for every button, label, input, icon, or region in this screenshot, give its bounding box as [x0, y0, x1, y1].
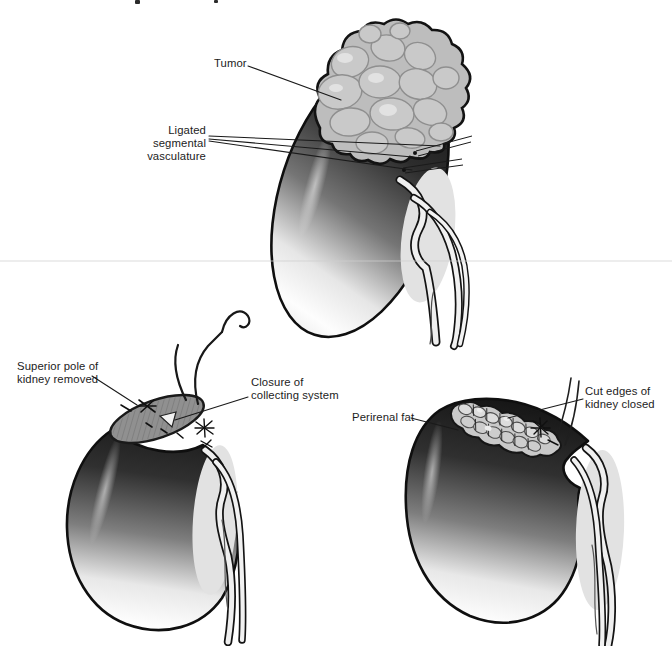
label-ligated-segmental-vasculature: Ligated segmental vasculature [116, 124, 206, 162]
label-perirenal-fat: Perirenal fat [352, 411, 414, 424]
kidney-illustrations-svg [0, 0, 672, 646]
cut-surface [104, 385, 209, 453]
suture-thread [175, 312, 249, 404]
cropped-text-fragments [135, 0, 218, 4]
figure-kidney-closed [406, 378, 627, 646]
label-cut-edges-closed: Cut edges of kidney closed [585, 385, 655, 411]
label-closure-collecting-system: Closure of collecting system [251, 376, 339, 402]
label-tumor: Tumor [214, 57, 247, 70]
suture-needle [222, 312, 249, 332]
knot-whiskers [195, 419, 214, 448]
medical-illustration-page: Tumor Ligated segmental vasculature Supe… [0, 0, 672, 646]
leader-superior-pole [92, 376, 137, 405]
figure-kidney-with-tumor [238, 20, 481, 360]
label-superior-pole-removed: Superior pole of kidney removed [17, 360, 98, 386]
